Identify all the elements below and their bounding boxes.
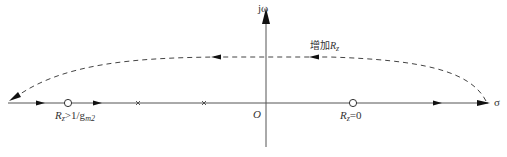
arc-arrow-icon — [309, 55, 319, 60]
increase-rz-annotation: 增加Rz — [310, 41, 339, 53]
origin-label: O — [253, 109, 261, 120]
real-axis-label: σ — [494, 97, 500, 108]
zero-marker-icon — [349, 99, 356, 106]
zero-marker-icon — [64, 99, 71, 106]
zero-right-label: Rz=0 — [340, 110, 362, 123]
dashed-locus-arc — [12, 57, 486, 101]
imag-axis-label: jω — [258, 3, 268, 14]
locus-arrow-icon — [36, 101, 45, 106]
locus-arrow-icon — [433, 101, 442, 106]
arc-arrow-icon — [211, 55, 221, 60]
zero-left-label: Rz>1/gm2 — [55, 110, 95, 123]
root-locus-diagram — [0, 0, 507, 157]
real-axis-arrow-icon — [477, 100, 490, 106]
locus-arrow-icon — [93, 101, 102, 106]
arc-end-arrow-icon — [9, 92, 21, 101]
